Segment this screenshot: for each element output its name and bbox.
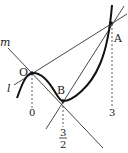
line-m bbox=[8, 48, 103, 148]
label-o: O bbox=[19, 66, 28, 79]
tick-3-2-numerator: 3 bbox=[60, 127, 66, 138]
label-b: B bbox=[57, 84, 65, 97]
point-b bbox=[61, 99, 65, 103]
tick-0: 0 bbox=[29, 107, 35, 118]
tick-3-2-denominator: 2 bbox=[60, 139, 66, 150]
point-o bbox=[30, 71, 34, 75]
label-a: A bbox=[113, 32, 123, 45]
diagram: O B A m l 0 3 3 2 bbox=[0, 0, 128, 153]
label-m: m bbox=[0, 36, 10, 49]
point-a bbox=[109, 21, 113, 25]
tick-3: 3 bbox=[109, 107, 115, 118]
label-l: l bbox=[7, 82, 11, 95]
